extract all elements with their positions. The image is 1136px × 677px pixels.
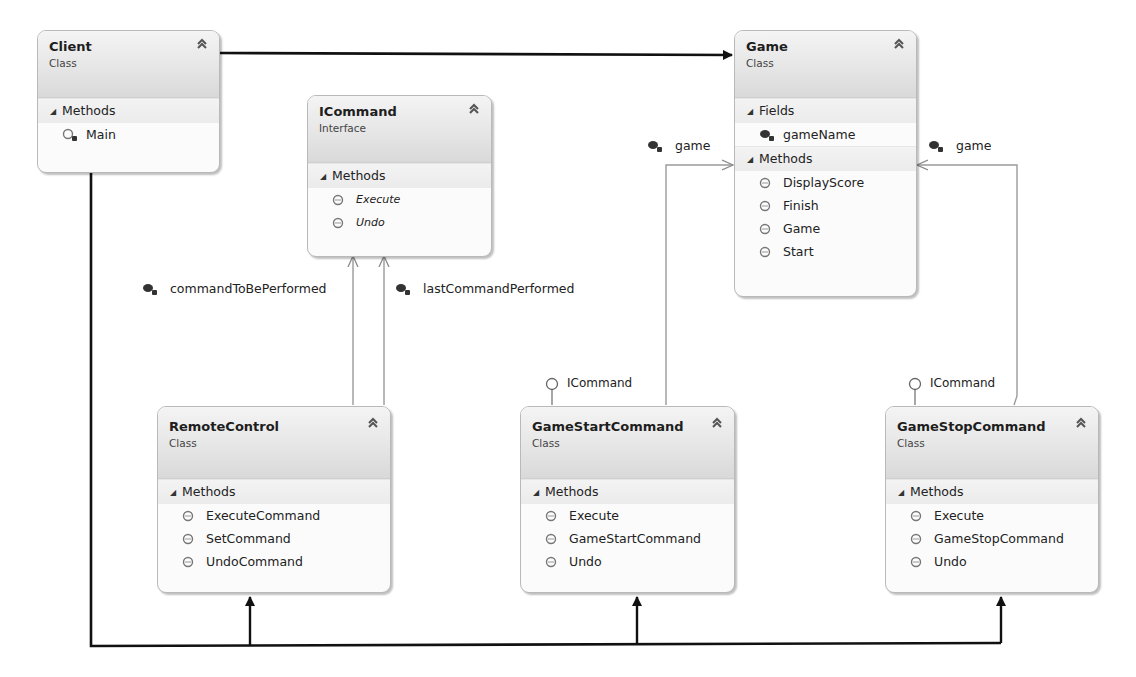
private-field-icon — [142, 282, 166, 296]
member-gamename[interactable]: gameName — [735, 123, 916, 146]
collapse-chevron-icon[interactable] — [368, 417, 378, 429]
method-icon — [545, 509, 569, 523]
section-methods[interactable]: ◢Methods — [308, 163, 491, 188]
section-methods[interactable]: ◢Methods — [158, 479, 390, 504]
private-field-icon — [928, 139, 952, 153]
method-icon — [910, 532, 934, 546]
private-field-icon — [759, 128, 783, 142]
client-game-association — [219, 53, 732, 55]
method-icon — [545, 555, 569, 569]
class-kind: Class — [532, 437, 734, 449]
member-setcommand[interactable]: SetCommand — [158, 527, 390, 550]
method-icon — [182, 509, 206, 523]
expand-triangle-icon: ◢ — [320, 165, 332, 189]
method-icon — [910, 555, 934, 569]
member-execute[interactable]: Execute — [308, 188, 491, 211]
class-header[interactable]: RemoteControl Class — [158, 407, 390, 479]
interface-box-icommand[interactable]: ICommand Interface ◢Methods Execute Undo — [307, 95, 492, 257]
method-icon — [759, 245, 783, 259]
section-methods[interactable]: ◢Methods — [886, 479, 1098, 504]
association-label-game-stop[interactable]: game — [928, 138, 991, 153]
member-undo[interactable]: Undo — [521, 550, 734, 573]
member-displayscore[interactable]: DisplayScore — [735, 171, 916, 194]
method-icon — [910, 509, 934, 523]
member-execute[interactable]: Execute — [886, 504, 1098, 527]
member-executecommand[interactable]: ExecuteCommand — [158, 504, 390, 527]
expand-triangle-icon: ◢ — [170, 481, 182, 505]
method-icon — [182, 555, 206, 569]
member-execute[interactable]: Execute — [521, 504, 734, 527]
private-static-method-icon — [62, 128, 86, 142]
method-icon — [332, 193, 356, 207]
class-header[interactable]: ICommand Interface — [308, 96, 491, 163]
section-fields[interactable]: ◢Fields — [735, 98, 916, 123]
class-kind: Class — [897, 437, 1098, 449]
member-gamestartcommand[interactable]: GameStartCommand — [521, 527, 734, 550]
method-icon — [332, 216, 356, 230]
class-kind: Class — [169, 437, 390, 449]
method-icon — [182, 532, 206, 546]
section-methods[interactable]: ◢Methods — [735, 146, 916, 171]
class-header[interactable]: GameStartCommand Class — [521, 407, 734, 479]
expand-triangle-icon: ◢ — [533, 481, 545, 505]
association-label-lastcommandperformed[interactable]: lastCommandPerformed — [395, 281, 574, 296]
member-gamestopcommand[interactable]: GameStopCommand — [886, 527, 1098, 550]
private-field-icon — [395, 282, 419, 296]
member-undocommand[interactable]: UndoCommand — [158, 550, 390, 573]
class-name: ICommand — [319, 104, 491, 119]
class-name: Game — [746, 39, 916, 54]
class-kind: Class — [746, 57, 916, 69]
member-undo[interactable]: Undo — [308, 211, 491, 234]
member-undo[interactable]: Undo — [886, 550, 1098, 573]
class-kind: Interface — [319, 122, 491, 134]
expand-triangle-icon: ◢ — [747, 100, 759, 124]
expand-triangle-icon: ◢ — [50, 100, 62, 124]
section-methods[interactable]: ◢Methods — [38, 98, 219, 123]
method-icon — [759, 176, 783, 190]
expand-triangle-icon: ◢ — [747, 148, 759, 172]
class-header[interactable]: GameStopCommand Class — [886, 407, 1098, 479]
collapse-chevron-icon[interactable] — [469, 103, 479, 115]
interface-lollipop-label-start[interactable]: ICommand — [567, 376, 632, 390]
collapse-chevron-icon[interactable] — [894, 38, 904, 50]
class-box-gamestartcommand[interactable]: GameStartCommand Class ◢Methods Execute … — [520, 406, 735, 593]
class-kind: Class — [49, 57, 219, 69]
class-box-client[interactable]: Client Class ◢Methods Main — [37, 30, 220, 173]
method-icon — [545, 532, 569, 546]
class-box-game[interactable]: Game Class ◢Fields gameName ◢Methods Dis… — [734, 30, 917, 297]
method-icon — [759, 199, 783, 213]
member-finish[interactable]: Finish — [735, 194, 916, 217]
member-main[interactable]: Main — [38, 123, 219, 146]
association-label-game-start[interactable]: game — [647, 138, 710, 153]
expand-triangle-icon: ◢ — [898, 481, 910, 505]
interface-lollipop-label-stop[interactable]: ICommand — [930, 376, 995, 390]
class-name: RemoteControl — [169, 419, 390, 434]
association-label-commandtobeperformed[interactable]: commandToBePerformed — [142, 281, 327, 296]
collapse-chevron-icon[interactable] — [197, 38, 207, 50]
collapse-chevron-icon[interactable] — [712, 417, 722, 429]
class-header[interactable]: Client Class — [38, 31, 219, 98]
method-icon — [759, 222, 783, 236]
member-start[interactable]: Start — [735, 240, 916, 263]
class-name: GameStartCommand — [532, 419, 734, 434]
class-box-remotecontrol[interactable]: RemoteControl Class ◢Methods ExecuteComm… — [157, 406, 391, 593]
private-field-icon — [647, 139, 671, 153]
class-header[interactable]: Game Class — [735, 31, 916, 98]
class-name: Client — [49, 39, 219, 54]
class-name: GameStopCommand — [897, 419, 1098, 434]
section-methods[interactable]: ◢Methods — [521, 479, 734, 504]
class-box-gamestopcommand[interactable]: GameStopCommand Class ◢Methods Execute G… — [885, 406, 1099, 593]
member-game[interactable]: Game — [735, 217, 916, 240]
collapse-chevron-icon[interactable] — [1076, 417, 1086, 429]
